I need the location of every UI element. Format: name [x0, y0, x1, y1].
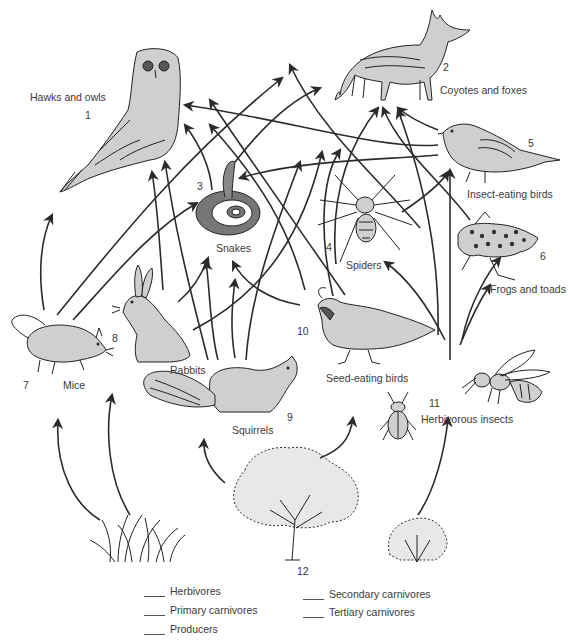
bee-illustration — [462, 350, 550, 404]
legend-herbivores: Herbivores — [144, 585, 221, 597]
squirrel-illustration — [144, 356, 298, 412]
blank-line[interactable] — [303, 609, 324, 618]
legend-label: Tertiary carnivores — [329, 606, 415, 618]
number-3: 3 — [197, 181, 203, 192]
legend-label: Primary carnivores — [170, 604, 258, 616]
number-5: 5 — [528, 138, 534, 149]
label-hawks-owls: Hawks and owls — [30, 92, 106, 103]
label-snakes: Snakes — [216, 243, 251, 254]
number-7: 7 — [23, 380, 29, 391]
label-seed-eating-birds: Seed-eating birds — [326, 373, 408, 384]
label-spiders: Spiders — [346, 260, 382, 271]
legend-label: Herbivores — [170, 585, 221, 597]
legend-label: Producers — [170, 623, 218, 635]
legend-secondary-carnivores: Secondary carnivores — [303, 588, 431, 600]
legend-primary-carnivores: Primary carnivores — [144, 604, 258, 616]
blank-line[interactable] — [303, 591, 324, 600]
legend-producers: Producers — [144, 623, 218, 635]
number-6: 6 — [540, 251, 546, 262]
spider-illustration — [318, 175, 412, 262]
label-coyotes-foxes: Coyotes and foxes — [440, 85, 527, 96]
number-11: 11 — [429, 398, 440, 409]
label-insect-eating-birds: Insect-eating birds — [467, 189, 553, 200]
rabbit-illustration — [112, 265, 190, 362]
blank-line[interactable] — [144, 588, 165, 597]
label-squirrels: Squirrels — [232, 425, 273, 436]
label-rabbits: Rabbits — [170, 365, 206, 376]
shrub-illustration — [388, 518, 447, 562]
tree-illustration — [234, 447, 359, 560]
number-8: 8 — [112, 333, 118, 344]
label-frogs-toads: Frogs and toads — [490, 284, 566, 295]
owl-illustration — [60, 49, 180, 192]
number-9: 9 — [287, 412, 293, 423]
number-10: 10 — [297, 326, 309, 337]
legend-tertiary-carnivores: Tertiary carnivores — [303, 606, 415, 618]
grass-illustration — [90, 515, 185, 562]
number-4: 4 — [326, 242, 332, 253]
mouse-illustration — [12, 315, 114, 374]
number-12: 12 — [297, 566, 309, 577]
label-mice: Mice — [63, 380, 85, 391]
blank-line[interactable] — [144, 626, 165, 635]
legend-label: Secondary carnivores — [329, 588, 431, 600]
label-herbivorous-insects: Herbivorous insects — [421, 414, 513, 425]
blank-line[interactable] — [144, 607, 165, 616]
beetle-illustration — [380, 392, 416, 440]
insect-eating-bird-illustration — [438, 124, 560, 183]
snake-illustration — [196, 161, 260, 235]
quail-illustration — [318, 288, 435, 364]
number-2: 2 — [443, 62, 449, 73]
number-1: 1 — [85, 110, 91, 121]
frog-illustration — [458, 212, 538, 280]
